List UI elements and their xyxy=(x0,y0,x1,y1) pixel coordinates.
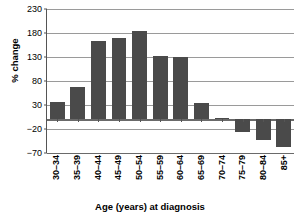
y-tick-label: 80 xyxy=(2,76,42,86)
x-tick-label: 50–54 xyxy=(134,155,144,180)
bar-series xyxy=(47,9,294,153)
bar-slot xyxy=(88,9,109,153)
x-tick-mark xyxy=(119,119,120,122)
x-tick-mark xyxy=(140,119,141,122)
bar[interactable] xyxy=(132,31,147,120)
x-tick-mark xyxy=(57,119,58,122)
x-tick-label: 45–49 xyxy=(113,155,123,180)
bar-slot xyxy=(232,9,253,153)
x-tick-mark xyxy=(201,119,202,122)
y-tick-label: 180 xyxy=(2,28,42,38)
x-label-slot: 80–84 xyxy=(253,155,274,197)
bar[interactable] xyxy=(50,102,65,119)
y-tick-label: −70 xyxy=(2,148,42,158)
x-tick-mark xyxy=(222,119,223,122)
bar[interactable] xyxy=(256,119,271,140)
x-tick-mark xyxy=(160,119,161,122)
bar-slot xyxy=(253,9,274,153)
x-tick-mark xyxy=(243,119,244,122)
gridline xyxy=(47,153,294,154)
x-tick-label: 30–34 xyxy=(51,155,61,180)
x-label-slot: 45–49 xyxy=(108,155,129,197)
x-tick-label: 80–84 xyxy=(258,155,268,180)
x-label-slot: 55–59 xyxy=(149,155,170,197)
x-tick-label: 60–64 xyxy=(175,155,185,180)
x-tick-mark xyxy=(263,119,264,122)
x-label-slot: 70–74 xyxy=(211,155,232,197)
x-tick-mark xyxy=(78,119,79,122)
x-label-slot: 85+ xyxy=(273,155,294,197)
plot-area: 2301801308030−20−70 xyxy=(46,9,294,153)
x-label-slot: 30–34 xyxy=(46,155,67,197)
bar-slot xyxy=(68,9,89,153)
x-tick-label: 75–79 xyxy=(237,155,247,180)
bar[interactable] xyxy=(153,56,168,119)
x-label-slot: 35–39 xyxy=(67,155,88,197)
chart-container: % change 2301801308030−20−70 30–3435–394… xyxy=(0,0,300,220)
bar[interactable] xyxy=(194,103,209,120)
bar-slot xyxy=(212,9,233,153)
x-tick-label: 85+ xyxy=(279,155,289,170)
x-tick-label: 65–69 xyxy=(196,155,206,180)
bar-slot xyxy=(273,9,294,153)
x-axis-tick-labels: 30–3435–3940–4445–4950–5455–5960–6465–69… xyxy=(46,155,294,197)
bar-slot xyxy=(171,9,192,153)
bar-slot xyxy=(109,9,130,153)
bar[interactable] xyxy=(276,119,291,146)
bar[interactable] xyxy=(173,57,188,119)
y-tick-label: 230 xyxy=(2,4,42,14)
x-label-slot: 60–64 xyxy=(170,155,191,197)
y-tick-label: 130 xyxy=(2,52,42,62)
x-tick-label: 70–74 xyxy=(217,155,227,180)
x-tick-mark xyxy=(98,119,99,122)
x-axis-title: Age (years) at diagnosis xyxy=(0,201,300,212)
bar-slot xyxy=(129,9,150,153)
x-label-slot: 50–54 xyxy=(129,155,150,197)
bar[interactable] xyxy=(70,87,85,120)
x-tick-mark xyxy=(181,119,182,122)
bar-slot xyxy=(150,9,171,153)
bar[interactable] xyxy=(112,38,127,120)
x-tick-mark xyxy=(284,119,285,122)
y-tick-label: −20 xyxy=(2,124,42,134)
x-label-slot: 65–69 xyxy=(191,155,212,197)
bar-slot xyxy=(191,9,212,153)
x-tick-label: 55–59 xyxy=(155,155,165,180)
bar-slot xyxy=(47,9,68,153)
x-label-slot: 40–44 xyxy=(87,155,108,197)
x-label-slot: 75–79 xyxy=(232,155,253,197)
x-tick-label: 40–44 xyxy=(93,155,103,180)
bar[interactable] xyxy=(91,41,106,119)
y-tick-label: 30 xyxy=(2,100,42,110)
x-tick-label: 35–39 xyxy=(72,155,82,180)
